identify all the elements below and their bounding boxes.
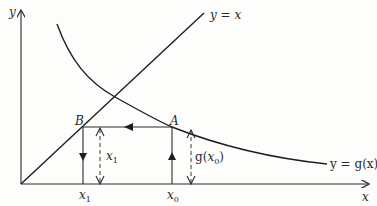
identity-line-label: y = x <box>209 8 241 22</box>
g-curve-label: y = g(x) <box>329 157 377 171</box>
x-axis-label: x <box>362 190 369 204</box>
x0-tick-label: x0 <box>167 188 179 204</box>
x1-tick-label: x1 <box>79 188 91 204</box>
point-a-label: A <box>169 114 179 128</box>
x1-height-label: x1 <box>106 149 118 165</box>
g-curve <box>57 24 327 164</box>
gx0-height-label: g(x0) <box>195 150 224 166</box>
y-axis-label: y <box>8 5 16 19</box>
point-b-label: B <box>74 114 84 128</box>
left-arrow-icon <box>124 123 133 131</box>
down-arrow-icon <box>79 153 87 161</box>
cobweb-diagram: y x y = x y = g(x) B A x1 g(x0) x1 x0 <box>0 0 377 206</box>
up-arrow-icon <box>168 152 176 160</box>
